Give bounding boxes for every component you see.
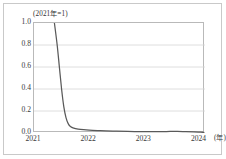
y-axis-tick-label: 1.0 [3, 18, 31, 26]
x-axis-unit-label: (年) [214, 134, 226, 143]
chart-figure: (2021年=1) 0.00.20.40.60.81.0 (年) 2021202… [0, 0, 226, 159]
y-axis-tick-label: 0.2 [3, 106, 31, 114]
x-axis-tick-label: 2024 [191, 134, 206, 143]
data-line [54, 23, 203, 132]
chart-title: (2021年=1) [33, 9, 68, 19]
y-axis-tick-label: 0.4 [3, 84, 31, 92]
gridlines [34, 23, 205, 133]
y-axis-tick-labels: 0.00.20.40.60.81.0 [0, 22, 31, 132]
x-axis-tick-label: 2023 [136, 134, 151, 143]
x-axis-tick-label: 2021 [25, 134, 40, 143]
plot-svg [34, 23, 205, 133]
x-axis-tick-labels: (年) 2021202220232024 [33, 134, 225, 146]
y-axis-tick-label: 0.8 [3, 40, 31, 48]
data-series-group [54, 23, 203, 132]
x-axis-tick-label: 2022 [81, 134, 96, 143]
y-axis-tick-label: 0.6 [3, 62, 31, 70]
plot-area [33, 22, 204, 132]
